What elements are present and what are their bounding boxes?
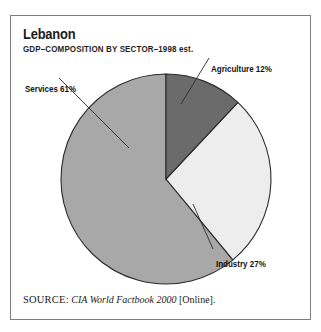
source-title: CIA World Factbook 2000	[71, 294, 176, 305]
source-note: SOURCE: CIA World Factbook 2000 [Online]…	[23, 294, 215, 305]
pie-label-agriculture: Agriculture 12%	[211, 64, 272, 74]
pie-label-industry: Industry 27%	[216, 259, 266, 269]
pie-label-services: Services 61%	[25, 84, 76, 94]
source-label: SOURCE:	[23, 294, 69, 305]
figure-frame: Lebanon GDP–COMPOSITION BY SECTOR–1998 e…	[10, 15, 311, 320]
source-suffix: [Online].	[179, 294, 215, 305]
pie-chart	[11, 16, 312, 321]
